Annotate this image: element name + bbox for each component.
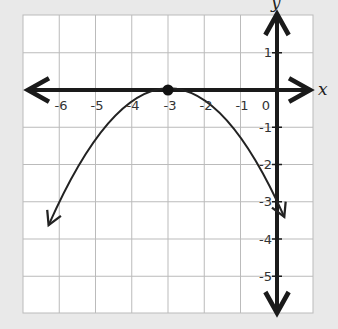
x-tick-label: -2 xyxy=(200,98,213,113)
y-tick-label: -1 xyxy=(259,120,272,135)
x-tick-label: -1 xyxy=(236,98,249,113)
coordinate-plane: -6 -5 -4 -3 -2 -1 0 1 -1 -2 -3 -4 -5 x y xyxy=(0,0,338,329)
y-axis-label: y xyxy=(270,0,281,12)
y-tick-label: -2 xyxy=(259,157,272,172)
y-tick-label: -3 xyxy=(259,194,272,209)
x-tick-label: -6 xyxy=(55,98,68,113)
y-tick-label: -5 xyxy=(259,269,272,284)
y-tick-label: 1 xyxy=(264,45,272,60)
x-tick-label: -5 xyxy=(91,98,104,113)
x-tick-label: -3 xyxy=(164,98,177,113)
x-tick-label: 0 xyxy=(262,98,270,113)
x-tick-label: -4 xyxy=(127,98,140,113)
vertex-point xyxy=(163,85,174,96)
x-axis-label: x xyxy=(318,79,328,99)
y-tick-label: -4 xyxy=(259,232,272,247)
